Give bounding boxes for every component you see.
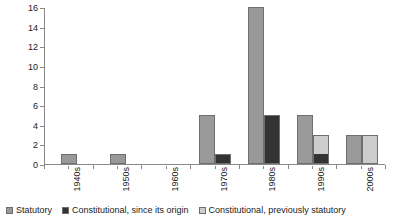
bar-chart: 0246810121416 1940s1950s1960s1970s1980s1… <box>0 0 404 218</box>
legend-label: Statutory <box>16 206 52 215</box>
bars-layer <box>45 8 385 164</box>
y-tick-mark <box>40 106 44 107</box>
x-axis-label: 2000s <box>366 167 375 192</box>
y-tick-label: 6 <box>33 102 38 111</box>
bar-group <box>289 8 338 164</box>
bar-group <box>142 8 191 164</box>
x-axis-label: 1970s <box>220 167 229 192</box>
x-axis-label: 1980s <box>268 167 277 192</box>
x-axis-label: 1960s <box>171 167 180 192</box>
bar-constitutional-stacked <box>313 135 329 164</box>
y-tick-mark <box>40 126 44 127</box>
y-tick-mark <box>40 67 44 68</box>
legend-label: Constitutional, since its origin <box>72 206 189 215</box>
y-tick-mark <box>40 87 44 88</box>
bar-segment-statutory <box>249 8 263 163</box>
y-tick-label: 16 <box>28 4 38 13</box>
bar-segment-constitutional-origin <box>216 155 230 163</box>
bar-statutory <box>110 154 126 164</box>
bar-constitutional-origin <box>215 154 231 164</box>
bar-segment-statutory <box>62 155 76 163</box>
bar-group <box>337 8 386 164</box>
legend-swatch-icon <box>6 207 13 214</box>
x-axis-label: 1940s <box>73 167 82 192</box>
y-tick-mark <box>40 28 44 29</box>
bar-statutory <box>199 115 215 164</box>
legend-swatch-icon <box>199 207 206 214</box>
bar-segment-statutory <box>298 116 312 163</box>
bar-segment-constitutional-previously <box>314 136 328 154</box>
y-tick-mark <box>40 145 44 146</box>
x-axis-line <box>44 164 385 165</box>
y-tick-label: 2 <box>33 141 38 150</box>
bar-group <box>45 8 94 164</box>
bar-constitutional-previously <box>362 135 378 164</box>
legend-swatch-icon <box>62 207 69 214</box>
chart-legend: StatutoryConstitutional, since its origi… <box>6 204 402 216</box>
legend-item: Constitutional, since its origin <box>62 206 189 215</box>
bar-statutory <box>248 7 264 164</box>
x-axis-labels: 1940s1950s1960s1970s1980s1990s2000s <box>45 167 386 201</box>
bar-statutory <box>61 154 77 164</box>
bar-segment-constitutional-origin <box>314 154 328 163</box>
y-tick-label: 0 <box>33 161 38 170</box>
y-tick-label: 8 <box>33 82 38 91</box>
legend-item: Statutory <box>6 206 52 215</box>
bar-group <box>191 8 240 164</box>
x-axis-label: 1950s <box>122 167 131 192</box>
y-tick-label: 14 <box>28 23 38 32</box>
bar-segment-constitutional-previously <box>363 136 377 163</box>
y-tick-label: 4 <box>33 121 38 130</box>
bar-segment-constitutional-origin <box>265 116 279 163</box>
bar-segment-statutory <box>200 116 214 163</box>
bar-statutory <box>346 135 362 164</box>
bar-group <box>240 8 289 164</box>
bar-group <box>94 8 143 164</box>
legend-label: Constitutional, previously statutory <box>209 206 346 215</box>
bar-constitutional-origin <box>264 115 280 164</box>
bar-segment-statutory <box>111 155 125 163</box>
y-tick-label: 10 <box>28 62 38 71</box>
legend-item: Constitutional, previously statutory <box>199 206 346 215</box>
y-tick-mark <box>40 47 44 48</box>
bar-segment-statutory <box>347 136 361 163</box>
x-axis-label: 1990s <box>317 167 326 192</box>
plot-area: 0246810121416 <box>44 8 385 165</box>
y-tick-mark <box>40 8 44 9</box>
bar-statutory <box>297 115 313 164</box>
y-tick-label: 12 <box>28 43 38 52</box>
